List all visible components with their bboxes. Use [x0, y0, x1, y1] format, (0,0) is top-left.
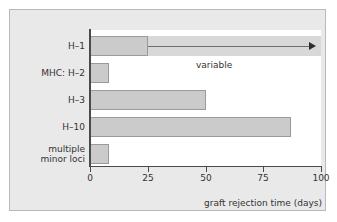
x-tick-label-75: 75: [248, 173, 278, 183]
graft-rejection-bar-chart: variable 0 25 50 75 100 graft rejection …: [0, 0, 337, 222]
x-tick-mark-50: [206, 167, 207, 172]
x-tick-mark-100: [321, 167, 322, 172]
y-axis-line: [89, 29, 91, 167]
category-label-mhc-h2: MHC: H–2: [22, 68, 85, 78]
category-label-line1: multiple: [22, 144, 85, 154]
category-label-h10: H–10: [22, 122, 85, 132]
x-tick-label-100: 100: [306, 173, 336, 183]
bar-multiple-minor-loci: [90, 144, 109, 164]
x-tick-mark-25: [148, 167, 149, 172]
bar-mhc-h2: [90, 63, 109, 83]
chart-panel: variable 0 25 50 75 100 graft rejection …: [9, 9, 326, 211]
category-label-line2: minor loci: [22, 154, 85, 164]
bar-h3: [90, 90, 206, 110]
category-label-multiple-minor-loci: multiple minor loci: [22, 144, 85, 164]
category-label-h1: H–1: [22, 41, 85, 51]
x-tick-mark-75: [263, 167, 264, 172]
x-tick-mark-0: [90, 167, 91, 172]
bar-h1: [90, 36, 148, 56]
variable-arrow-head-icon: [309, 42, 316, 50]
bar-h10: [90, 117, 291, 137]
x-tick-label-50: 50: [191, 173, 221, 183]
variable-arrow-shaft: [147, 46, 310, 47]
variable-annotation-label: variable: [196, 60, 232, 70]
category-label-h3: H–3: [22, 95, 85, 105]
x-tick-label-0: 0: [75, 173, 105, 183]
x-tick-label-25: 25: [133, 173, 163, 183]
x-axis-title: graft rejection time (days): [160, 198, 322, 208]
